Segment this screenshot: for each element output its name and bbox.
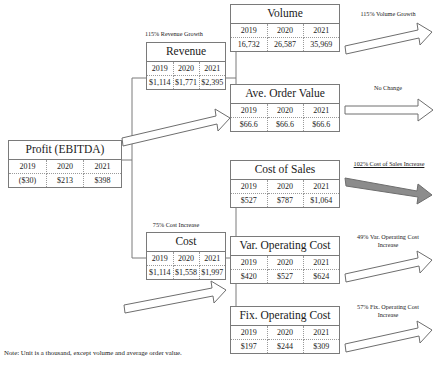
caption-line-1: 49% Var. Operating Cost <box>357 233 419 240</box>
year-header: 2020 <box>267 256 303 270</box>
node-cost-of-sales[interactable]: Cost of Sales 2019 2020 2021 $527 $787 $… <box>230 160 340 208</box>
caption-revenue-growth: 115% Revenue Growth <box>122 30 226 38</box>
volume-growth-arrow <box>345 23 432 54</box>
value-cell: $213 <box>46 174 83 188</box>
caption-line-2: Increase <box>378 241 399 248</box>
cost-of-sales-increase-arrow <box>345 178 432 204</box>
caption-line-2: Increase <box>378 311 399 318</box>
year-header: 2021 <box>303 104 339 118</box>
value-cell: 26,587 <box>267 38 303 52</box>
value-cell: $1,114 <box>147 76 173 90</box>
year-header: 2020 <box>46 160 83 174</box>
year-header: 2019 <box>231 24 267 38</box>
node-cost-of-sales-table: 2019 2020 2021 $527 $787 $1,064 <box>231 180 339 207</box>
driver-tree-diagram: Profit (EBITDA) 2019 2020 2021 ($30) $21… <box>0 0 438 366</box>
caption-cost-of-sales-increase: 102% Cost of Sales Increase <box>340 160 438 168</box>
value-cell: 16,732 <box>231 38 267 52</box>
value-cell: $624 <box>303 270 339 284</box>
value-cell: $1,064 <box>303 194 339 208</box>
year-header: 2020 <box>267 180 303 194</box>
value-cell: $1,771 <box>173 76 199 90</box>
node-ave-order-value-title: Ave. Order Value <box>231 85 339 104</box>
revenue-growth-arrow <box>122 109 230 146</box>
var-operating-cost-increase-arrow <box>345 251 432 282</box>
node-cost-of-sales-title: Cost of Sales <box>231 161 339 180</box>
value-cell: ($30) <box>9 174 46 188</box>
value-cell: $787 <box>267 194 303 208</box>
caption-fix-operating-cost-increase: 57% Fix. Operating Cost Increase <box>340 303 436 319</box>
value-cell: $398 <box>84 174 121 188</box>
year-header: 2019 <box>147 252 173 266</box>
year-header: 2020 <box>267 24 303 38</box>
node-revenue-title: Revenue <box>147 43 225 62</box>
year-header: 2021 <box>303 180 339 194</box>
caption-cost-increase: 75% Cost Increase <box>128 221 224 229</box>
node-revenue[interactable]: Revenue 2019 2020 2021 $1,114 $1,771 $2,… <box>146 42 226 90</box>
caption-volume-growth: 115% Volume Growth <box>340 10 436 18</box>
node-cost-title: Cost <box>147 233 225 252</box>
caption-line-1: 57% Fix. Operating Cost <box>357 303 419 310</box>
node-cost-table: 2019 2020 2021 $1,114 $1,558 $1,997 <box>147 252 225 279</box>
node-fix-operating-cost-table: 2019 2020 2021 $197 $244 $309 <box>231 326 339 353</box>
year-header: 2021 <box>303 326 339 340</box>
value-cell: $66.6 <box>303 118 339 132</box>
year-header: 2019 <box>231 256 267 270</box>
year-header: 2021 <box>199 252 225 266</box>
node-cost[interactable]: Cost 2019 2020 2021 $1,114 $1,558 $1,997 <box>146 232 226 280</box>
value-cell: $1,114 <box>147 266 173 280</box>
caption-aov-no-change: No Change <box>340 84 436 92</box>
node-ave-order-value-table: 2019 2020 2021 $66.6 $66.6 $66.6 <box>231 104 339 131</box>
node-fix-operating-cost[interactable]: Fix. Operating Cost 2019 2020 2021 $197 … <box>230 306 340 354</box>
fix-operating-cost-increase-arrow <box>345 321 432 352</box>
value-cell: $244 <box>267 340 303 354</box>
node-var-operating-cost-title: Var. Operating Cost <box>231 237 339 256</box>
node-volume-table: 2019 2020 2021 16,732 26,587 35,969 <box>231 24 339 51</box>
year-header: 2020 <box>267 326 303 340</box>
year-header: 2019 <box>9 160 46 174</box>
cost-increase-arrow <box>124 281 226 313</box>
year-header: 2019 <box>147 62 173 76</box>
value-cell: $309 <box>303 340 339 354</box>
node-ave-order-value[interactable]: Ave. Order Value 2019 2020 2021 $66.6 $6… <box>230 84 340 132</box>
year-header: 2021 <box>199 62 225 76</box>
value-cell: $420 <box>231 270 267 284</box>
year-header: 2020 <box>173 62 199 76</box>
node-volume[interactable]: Volume 2019 2020 2021 16,732 26,587 35,9… <box>230 4 340 52</box>
value-cell: $66.6 <box>267 118 303 132</box>
node-profit-ebitda[interactable]: Profit (EBITDA) 2019 2020 2021 ($30) $21… <box>8 140 122 188</box>
aov-no-change-arrow <box>345 99 433 121</box>
value-cell: $527 <box>231 194 267 208</box>
caption-var-operating-cost-increase: 49% Var. Operating Cost Increase <box>340 233 436 249</box>
node-fix-operating-cost-title: Fix. Operating Cost <box>231 307 339 326</box>
node-revenue-table: 2019 2020 2021 $1,114 $1,771 $2,395 <box>147 62 225 89</box>
value-cell: $197 <box>231 340 267 354</box>
node-profit-ebitda-table: 2019 2020 2021 ($30) $213 $398 <box>9 160 121 187</box>
year-header: 2019 <box>231 180 267 194</box>
year-header: 2019 <box>231 326 267 340</box>
node-var-operating-cost-table: 2019 2020 2021 $420 $527 $624 <box>231 256 339 283</box>
value-cell: 35,969 <box>303 38 339 52</box>
value-cell: $1,997 <box>199 266 225 280</box>
year-header: 2020 <box>173 252 199 266</box>
year-header: 2019 <box>231 104 267 118</box>
year-header: 2020 <box>267 104 303 118</box>
year-header: 2021 <box>303 24 339 38</box>
footnote: Note: Unit is a thousand, except volume … <box>4 349 182 356</box>
value-cell: $527 <box>267 270 303 284</box>
value-cell: $1,558 <box>173 266 199 280</box>
value-cell: $2,395 <box>199 76 225 90</box>
node-var-operating-cost[interactable]: Var. Operating Cost 2019 2020 2021 $420 … <box>230 236 340 284</box>
year-header: 2021 <box>84 160 121 174</box>
value-cell: $66.6 <box>231 118 267 132</box>
node-profit-ebitda-title: Profit (EBITDA) <box>9 141 121 160</box>
node-volume-title: Volume <box>231 5 339 24</box>
year-header: 2021 <box>303 256 339 270</box>
